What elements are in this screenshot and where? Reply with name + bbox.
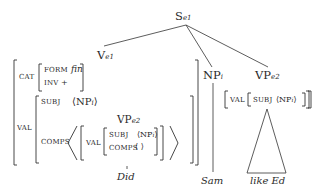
inner-comps-val: ⟨ ⟩ (135, 143, 144, 151)
leaf-like-ed: like Ed (250, 176, 285, 186)
node-v: Ve1 (97, 50, 114, 62)
bracket-outer-right (195, 60, 198, 165)
inner-val: VAL (86, 140, 101, 147)
leaf-sam: Sam (201, 176, 223, 186)
inner-vp-label: VP (117, 113, 132, 125)
bracket-vpavm-right (306, 91, 309, 108)
vp-avm-subj: SUBJ (253, 97, 272, 104)
bracket-vpavm-left (225, 91, 228, 108)
vp-avm-subj-val: ⟨NPi⟩ (276, 96, 297, 104)
inner-subj-np: ⟨NP (137, 130, 153, 139)
node-np: NPi (203, 70, 223, 82)
node-vp-label: VP (255, 68, 271, 82)
vp-avm-subj-close: ⟩ (293, 95, 296, 104)
inner-subj-close: ⟩ (154, 130, 157, 139)
bracket-innerval-left (104, 128, 107, 155)
inner-vp-sub: e2 (132, 117, 141, 125)
vp-avm-val: VAL (230, 97, 245, 104)
node-s: Se1 (175, 11, 192, 23)
avm-subj-np: ⟨NP (72, 96, 91, 107)
avm-inv-val: + (61, 79, 68, 87)
inner-comps: COMPS (109, 145, 138, 152)
bracket-innervp-left (81, 126, 84, 160)
avm-subj-close: ⟩ (94, 96, 98, 107)
leaf-did: Did (117, 172, 135, 182)
angle-close (170, 126, 178, 160)
avm-inv: INV (44, 80, 59, 87)
node-v-sub: e1 (105, 53, 114, 61)
avm-comps: COMPS (41, 139, 70, 146)
inner-subj: SUBJ (109, 132, 128, 139)
bracket-val-left (36, 96, 39, 163)
avm-cat: CAT (19, 74, 34, 81)
avm-val: VAL (17, 125, 32, 132)
node-np-sub: i (221, 73, 223, 81)
bracket-innervp-right (160, 126, 163, 160)
node-vp-sub: e2 (271, 73, 280, 81)
node-vp: VPe2 (255, 70, 280, 82)
avm-form-val: fin (71, 65, 83, 74)
inner-subj-val: ⟨NPi⟩ (137, 131, 158, 139)
inner-vp-node: VPe2 (117, 114, 140, 125)
vp-triangle (247, 109, 286, 173)
bracket-val-right (190, 96, 193, 163)
bracket-vpsubj-right (302, 93, 305, 106)
edge-s-v (104, 25, 186, 46)
avm-subj-val: ⟨NPi⟩ (72, 97, 98, 107)
node-s-label: S (175, 9, 183, 23)
bracket-vpavm-right2 (308, 91, 311, 108)
node-np-label: NP (203, 68, 221, 82)
bracket-outer-left (14, 60, 17, 165)
avm-subj: SUBJ (41, 99, 60, 106)
bracket-cat-left (39, 64, 42, 91)
vp-avm-subj-np: ⟨NP (276, 95, 292, 104)
bracket-vpsubj-left (248, 93, 251, 106)
avm-form: FORM (44, 67, 68, 74)
node-s-sub: e1 (183, 14, 192, 22)
